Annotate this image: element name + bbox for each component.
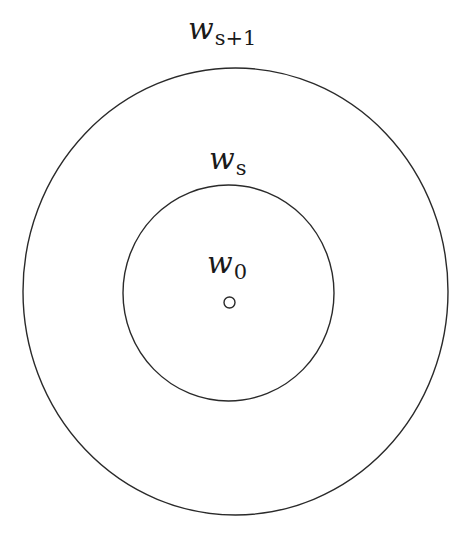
label-middle-circle: ws xyxy=(209,144,246,174)
label-middle-subscript: s xyxy=(236,156,247,180)
label-inner-main: w xyxy=(207,245,233,280)
label-outer-subscript: s+1 xyxy=(215,26,257,50)
label-outer-circle: ws+1 xyxy=(188,14,256,44)
label-outer-main: w xyxy=(188,11,214,46)
outer-circle-w-s-plus-1 xyxy=(23,68,448,515)
center-point-w-0 xyxy=(224,297,235,308)
label-center-point: w0 xyxy=(207,248,247,278)
label-inner-subscript: 0 xyxy=(234,260,247,284)
label-middle-main: w xyxy=(209,141,235,176)
middle-circle-w-s xyxy=(123,185,334,401)
